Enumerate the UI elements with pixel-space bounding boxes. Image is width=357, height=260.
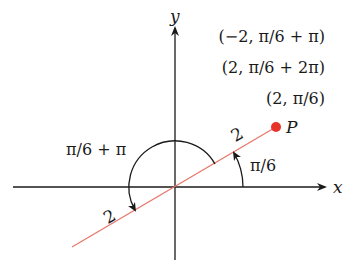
point-label: P — [285, 117, 298, 137]
y-axis-label: y — [169, 6, 180, 26]
angle-label-large: π/6 + π — [66, 140, 126, 159]
coord-label-3: (2, π/6) — [266, 89, 325, 108]
coord-label-2: (2, π/6 + 2π) — [222, 58, 325, 77]
coord-label-1: (−2, π/6 + π) — [219, 27, 325, 46]
radius-label-lower: 2 — [100, 205, 119, 228]
point-p — [271, 122, 281, 132]
angle-label-small: π/6 — [250, 156, 276, 175]
radius-label-upper: 2 — [227, 123, 246, 146]
angle-arc-small — [234, 153, 243, 187]
polar-diagram: y x P (−2, π/6 + π) (2, π/6 + 2π) (2, π/… — [0, 0, 357, 260]
x-axis-label: x — [333, 177, 343, 197]
angle-arc-large — [129, 141, 215, 210]
